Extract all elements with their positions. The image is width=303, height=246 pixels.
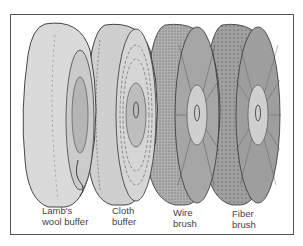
label-line: Cloth bbox=[112, 205, 136, 216]
label-line: wool buffer bbox=[42, 216, 88, 227]
label-line: Fiber bbox=[232, 208, 256, 219]
label-lambs-wool-buffer: Lamb's wool buffer bbox=[42, 205, 88, 227]
label-line: Wire bbox=[173, 207, 197, 218]
label-line: buffer bbox=[112, 216, 136, 227]
lambs-wool-buffer-wheel bbox=[23, 23, 96, 207]
label-line: brush bbox=[232, 219, 256, 230]
cloth-buffer-wheel bbox=[86, 24, 158, 205]
label-line: Lamb's bbox=[42, 205, 88, 216]
label-line: brush bbox=[173, 218, 197, 229]
label-cloth-buffer: Cloth buffer bbox=[112, 205, 136, 227]
label-fiber-brush: Fiber brush bbox=[232, 208, 256, 230]
label-wire-brush: Wire brush bbox=[173, 207, 197, 229]
